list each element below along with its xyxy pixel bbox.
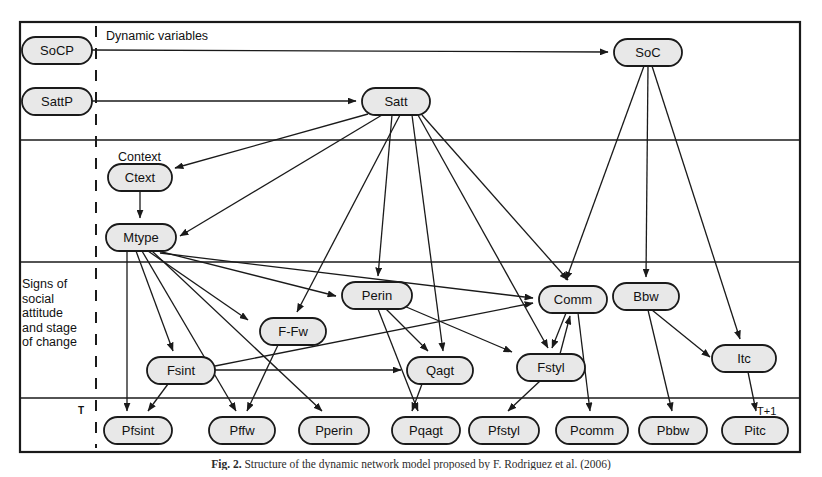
node-label: Ctext	[125, 170, 156, 185]
edge-Perin-to-Fstyl	[404, 306, 512, 352]
node-Pbbw[interactable]: Pbbw	[639, 417, 707, 444]
figure-container: SoCPSattPSattSoCCtextMtypePerinF-FwCommB…	[0, 0, 822, 477]
edge-Satt-to-Perin	[378, 115, 392, 276]
edge-Fstyl-to-Pfstyl	[508, 381, 540, 411]
node-label: Pitc	[744, 423, 766, 438]
network-diagram: SoCPSattPSattSoCCtextMtypePerinF-FwCommB…	[0, 0, 822, 477]
node-Bbw[interactable]: Bbw	[613, 283, 679, 310]
node-label: Mtype	[123, 230, 158, 245]
edge-SoC-to-Bbw	[646, 66, 648, 277]
node-SoC[interactable]: SoC	[614, 39, 682, 66]
caption-text: Structure of the dynamic network model p…	[244, 458, 610, 470]
node-Ctext[interactable]: Ctext	[108, 164, 172, 191]
edge-Satt-to-Mtype	[180, 115, 382, 236]
node-layer: SoCPSattPSattSoCCtextMtypePerinF-FwCommB…	[22, 37, 788, 444]
node-label: SattP	[41, 94, 73, 109]
node-Itc[interactable]: Itc	[712, 345, 776, 372]
node-Pqagt[interactable]: Pqagt	[392, 417, 460, 444]
caption-label: Fig. 2.	[211, 458, 241, 470]
node-Satt[interactable]: Satt	[362, 88, 430, 115]
node-Pperin[interactable]: Pperin	[299, 417, 369, 444]
edge-SoCP-to-SoC	[92, 50, 608, 52]
node-label: F-Fw	[278, 324, 308, 339]
edge-Comm-to-Fstyl	[552, 313, 566, 348]
node-Perin[interactable]: Perin	[342, 282, 412, 309]
node-Fsint[interactable]: Fsint	[147, 357, 215, 384]
edge-Bbw-to-Itc	[652, 310, 710, 357]
band-label-context: Context	[118, 150, 161, 165]
node-label: Qagt	[426, 363, 455, 378]
node-label: Pfsint	[122, 423, 155, 438]
node-Comm[interactable]: Comm	[539, 286, 607, 313]
node-label: Pperin	[315, 423, 353, 438]
node-label: Satt	[384, 94, 408, 109]
node-label: Pfstyl	[488, 423, 520, 438]
node-SoCP[interactable]: SoCP	[22, 37, 92, 64]
band-label-dynamic-variables: Dynamic variables	[106, 29, 208, 44]
edge-SoC-to-Comm	[566, 66, 644, 280]
band-label-signs-of-social-attitude: Signs of social attitude and stage of ch…	[22, 277, 102, 350]
node-Pitc[interactable]: Pitc	[722, 417, 788, 444]
node-FFw[interactable]: F-Fw	[260, 318, 326, 345]
node-label: SoCP	[40, 43, 74, 58]
node-Mtype[interactable]: Mtype	[106, 224, 176, 251]
node-Pfstyl[interactable]: Pfstyl	[469, 417, 539, 444]
node-label: Comm	[554, 292, 592, 307]
node-Pcomm[interactable]: Pcomm	[556, 417, 628, 444]
edge-Fstyl-to-Comm	[560, 316, 570, 354]
node-Fstyl[interactable]: Fstyl	[517, 354, 585, 381]
node-label: SoC	[635, 45, 660, 60]
node-SattP[interactable]: SattP	[22, 88, 92, 115]
node-Pffw[interactable]: Pffw	[209, 417, 275, 444]
node-label: Itc	[737, 351, 751, 366]
node-Qagt[interactable]: Qagt	[407, 357, 473, 384]
node-Pfsint[interactable]: Pfsint	[104, 417, 172, 444]
node-label: Pbbw	[657, 423, 690, 438]
time-label-end: T+1	[757, 404, 776, 419]
edge-Bbw-to-Pbbw	[648, 310, 672, 411]
node-label: Fsint	[167, 363, 196, 378]
node-label: Fstyl	[537, 360, 565, 375]
time-label-start: T	[78, 404, 84, 419]
edge-Mtype-to-Pffw	[142, 251, 236, 411]
node-label: Perin	[362, 288, 392, 303]
edge-Itc-to-Pitc	[748, 372, 756, 411]
node-label: Pqagt	[409, 423, 443, 438]
edge-Mtype-to-Perin	[158, 251, 336, 296]
node-label: Pffw	[229, 423, 255, 438]
node-label: Pcomm	[570, 423, 614, 438]
node-label: Bbw	[633, 289, 659, 304]
figure-caption: Fig. 2. Structure of the dynamic network…	[0, 458, 822, 470]
